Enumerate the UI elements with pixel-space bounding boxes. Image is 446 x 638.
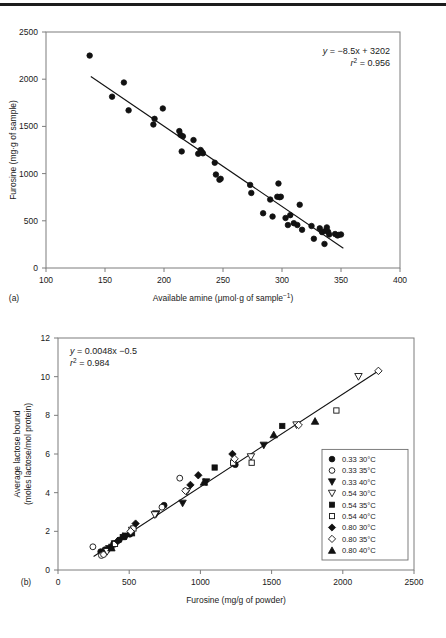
x-tick-label-b: 1000 (191, 577, 210, 587)
data-point (249, 190, 255, 196)
x-tick-label-a: 400 (393, 275, 407, 285)
data-point (160, 106, 166, 112)
data-point (212, 465, 217, 470)
panel-label-a: (a) (9, 293, 20, 303)
top-divider-rule (0, 3, 446, 6)
y-tick-label-b: 8 (45, 410, 50, 420)
legend-label: 0.80 35°C (342, 535, 376, 544)
data-point (285, 222, 291, 228)
panel-label-b: (b) (21, 577, 32, 587)
x-tick-label-a: 300 (275, 275, 289, 285)
data-point (191, 137, 197, 143)
x-tick-label-b: 2000 (333, 577, 352, 587)
data-point (326, 232, 332, 238)
data-point (247, 454, 254, 461)
data-point (295, 222, 301, 228)
legend-marker-open-square (329, 514, 334, 519)
y-tick-label-b: 6 (45, 449, 50, 459)
figure-page: 1001502002503003504000500100015002000250… (0, 0, 446, 638)
data-point (187, 481, 194, 488)
legend-label: 0.54 30°C (342, 489, 376, 498)
legend-label: 0.33 40°C (342, 478, 376, 487)
y-tick-label-b: 4 (45, 488, 50, 498)
y-tick-label-b: 2 (45, 526, 50, 536)
x-axis-title-b: Furosine (mg/g of powder) (186, 595, 286, 605)
data-point (218, 176, 224, 182)
legend-label: 0.80 40°C (342, 546, 376, 555)
legend-label: 0.54 40°C (342, 512, 376, 521)
data-point (270, 431, 277, 438)
data-point (309, 223, 315, 229)
equation-line1-b: y = 0.0048x −0.5 (69, 346, 137, 356)
data-point (334, 408, 339, 413)
x-tick-label-b: 1500 (262, 577, 281, 587)
plot-frame-a (46, 32, 400, 268)
legend-b: 0.33 30°C0.33 35°C0.33 40°C0.54 30°C0.54… (322, 449, 408, 560)
data-point (213, 172, 219, 178)
y-axis-title-a: Furosine (mg·g of sample) (8, 100, 18, 200)
data-point (152, 116, 158, 122)
scatter-plot-b: 05001000150020002500024681012y = 0.0048x… (0, 318, 446, 618)
y-tick-label-b: 10 (41, 372, 51, 382)
y-axis-title-b-line2: (moles lactose/mol protein) (23, 403, 33, 505)
x-tick-label-a: 200 (157, 275, 171, 285)
data-point (177, 475, 183, 481)
equation-line1-a: y = −8.5x + 3202 (322, 46, 390, 56)
data-point (311, 418, 318, 425)
equation-line2-a: r2 = 0.956 (351, 57, 390, 69)
legend-label: 0.80 30°C (342, 523, 376, 532)
data-point (355, 374, 362, 381)
series-0-33-35-c (90, 475, 183, 558)
data-point (288, 212, 294, 218)
y-tick-label-a: 2000 (19, 74, 38, 84)
data-point (121, 80, 127, 86)
legend-marker-filled-circle (329, 456, 335, 462)
data-point (260, 210, 266, 216)
caption-sliver (0, 628, 446, 638)
y-axis-title-b-line1: Average lactose bound (12, 410, 22, 497)
data-point (151, 122, 157, 128)
legend-label: 0.33 35°C (342, 466, 376, 475)
data-point (278, 194, 284, 200)
legend-label: 0.54 35°C (342, 501, 376, 510)
x-axis-title-a: Available amine (μmol·g of sample−1) (153, 292, 294, 304)
series-0-80-40-c (108, 418, 319, 551)
data-point (212, 160, 218, 166)
x-tick-label-a: 250 (216, 275, 230, 285)
data-point (299, 227, 305, 233)
y-tick-label-a: 1500 (19, 121, 38, 131)
data-point (322, 241, 328, 247)
x-tick-label-b: 0 (56, 577, 61, 587)
data-point (109, 94, 115, 100)
panel-b-container: 05001000150020002500024681012y = 0.0048x… (0, 318, 446, 618)
scatter-plot-a: 1001502002503003504000500100015002000250… (0, 10, 446, 315)
data-point (267, 197, 273, 203)
y-tick-label-b: 12 (41, 333, 51, 343)
legend-label: 0.33 30°C (342, 455, 376, 464)
data-point (126, 108, 132, 114)
data-points-a (87, 53, 344, 247)
data-point (375, 367, 382, 374)
y-tick-label-b: 0 (45, 565, 50, 575)
data-point (338, 232, 344, 238)
data-point (276, 181, 282, 187)
legend-marker-open-circle (329, 468, 335, 474)
data-point (87, 53, 93, 59)
legend-marker-filled-square (329, 502, 334, 507)
panel-a-container: 1001502002503003504000500100015002000250… (0, 10, 446, 315)
y-tick-label-a: 500 (24, 216, 38, 226)
x-tick-label-a: 350 (334, 275, 348, 285)
x-tick-label-a: 100 (39, 275, 53, 285)
data-point (180, 134, 186, 140)
data-point (179, 500, 186, 507)
data-point (195, 472, 202, 479)
equation-line2-b: r2 = 0.984 (70, 357, 109, 369)
y-tick-label-a: 2500 (19, 27, 38, 37)
x-tick-label-a: 150 (98, 275, 112, 285)
data-point (90, 544, 96, 550)
data-point (249, 460, 254, 465)
data-point (247, 182, 253, 188)
data-point (311, 236, 317, 242)
x-tick-label-b: 500 (122, 577, 136, 587)
data-point (270, 214, 276, 220)
